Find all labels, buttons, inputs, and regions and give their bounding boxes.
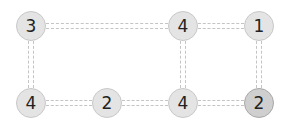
- bridge-r1c3-r1c4[interactable]: [198, 23, 244, 29]
- island-node[interactable]: 1: [244, 11, 274, 41]
- island-node[interactable]: 4: [16, 88, 46, 118]
- bridge-r2c2-r2c3[interactable]: [122, 100, 168, 106]
- bridge-r1c1-r1c3[interactable]: [46, 23, 168, 29]
- bridge-r1c1-r2c1[interactable]: [28, 41, 34, 88]
- island-node[interactable]: 4: [168, 88, 198, 118]
- island-node[interactable]: 3: [16, 11, 46, 41]
- bridge-r2c3-r2c4[interactable]: [198, 100, 244, 106]
- bridge-r1c4-r2c4[interactable]: [256, 41, 262, 88]
- island-node[interactable]: 2: [92, 88, 122, 118]
- island-node[interactable]: 4: [168, 11, 198, 41]
- bridge-r2c1-r2c2[interactable]: [46, 100, 92, 106]
- bridge-r1c3-r2c3[interactable]: [180, 41, 186, 88]
- island-node-selected[interactable]: 2: [244, 88, 274, 118]
- puzzle-board: 3 4 1 4 2 4 2: [0, 0, 290, 124]
